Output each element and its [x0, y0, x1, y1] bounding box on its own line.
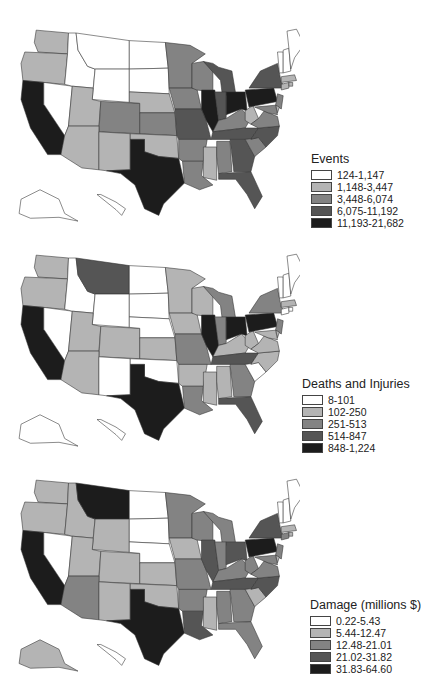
state-nd — [129, 266, 168, 295]
state-ia — [169, 313, 201, 334]
state-or — [21, 277, 68, 309]
state-wy — [92, 69, 129, 102]
state-ak — [19, 415, 78, 446]
state-hi — [97, 195, 126, 216]
state-ri — [289, 82, 293, 86]
deaths-injuries-map-panel: Deaths and Injuries 8-101 102-250 251-51… — [0, 225, 425, 450]
deaths-injuries-legend: Deaths and Injuries 8-101 102-250 251-51… — [302, 377, 410, 454]
legend-title: Deaths and Injuries — [302, 377, 410, 391]
damage-legend: Damage (millions $) 0.22-5.43 5.44-12.47… — [310, 598, 421, 675]
state-az — [61, 126, 99, 170]
state-al — [217, 141, 232, 173]
damage-map — [0, 450, 300, 678]
state-az — [61, 351, 99, 395]
state-wy — [92, 294, 129, 327]
state-sd — [129, 518, 169, 544]
legend-item: 6,075-11,192 — [311, 205, 404, 217]
legend-item: 12.48-21.01 — [310, 639, 421, 651]
state-sd — [129, 68, 169, 94]
state-ar — [179, 589, 208, 611]
events-legend: Events 124-1,147 1,148-3,447 3,448-6,074… — [311, 152, 404, 229]
legend-item: 31.83-64.60 — [310, 663, 421, 675]
legend-swatch — [310, 664, 331, 674]
state-ia — [169, 88, 201, 109]
legend-swatch — [302, 431, 323, 441]
legend-swatch — [310, 640, 331, 650]
legend-title: Damage (millions $) — [310, 598, 421, 612]
state-ma — [281, 300, 296, 308]
state-hi — [97, 645, 126, 666]
state-ks — [140, 113, 177, 136]
state-fl — [219, 622, 263, 659]
legend-swatch — [310, 652, 331, 662]
state-sd — [129, 293, 169, 319]
deaths-injuries-map — [0, 225, 300, 450]
legend-swatch — [311, 206, 332, 216]
legend-item: 21.02-31.82 — [310, 651, 421, 663]
legend-swatch — [310, 628, 331, 638]
state-ms — [203, 372, 216, 405]
legend-item: 102-250 — [302, 406, 410, 418]
events-map — [0, 0, 300, 225]
state-ak — [19, 190, 78, 221]
state-ms — [203, 597, 216, 630]
legend-item: 5.44-12.47 — [310, 627, 421, 639]
state-wa — [34, 30, 68, 54]
legend-item: 8-101 — [302, 394, 410, 406]
state-or — [21, 502, 68, 534]
damage-map-panel: Damage (millions $) 0.22-5.43 5.44-12.47… — [0, 450, 425, 678]
state-ri — [289, 532, 293, 536]
state-nm — [99, 132, 130, 171]
legend-label: 251-513 — [328, 418, 367, 430]
state-al — [217, 591, 232, 623]
legend-swatch — [311, 182, 332, 192]
legend-label: 3,448-6,074 — [337, 193, 393, 205]
legend-label: 102-250 — [328, 406, 367, 418]
legend-title: Events — [311, 152, 404, 166]
state-nd — [129, 491, 168, 519]
legend-swatch — [302, 395, 323, 405]
state-nm — [99, 582, 130, 621]
state-az — [61, 576, 99, 620]
legend-swatch — [302, 407, 323, 417]
state-wy — [92, 519, 129, 552]
state-co — [99, 551, 140, 583]
state-pa — [245, 538, 277, 557]
legend-label: 12.48-21.01 — [336, 639, 392, 651]
state-al — [217, 366, 232, 398]
state-fl — [219, 397, 263, 434]
state-ks — [140, 563, 177, 586]
legend-label: 31.83-64.60 — [336, 663, 392, 675]
state-ia — [169, 538, 201, 559]
state-or — [21, 52, 68, 84]
legend-label: 8-101 — [328, 394, 355, 406]
legend-swatch — [311, 170, 332, 180]
legend-label: 5.44-12.47 — [336, 627, 386, 639]
state-wa — [34, 480, 68, 504]
state-hi — [97, 420, 126, 441]
state-ma — [281, 75, 296, 83]
legend-label: 514-847 — [328, 430, 367, 442]
legend-swatch — [302, 419, 323, 429]
events-map-panel: Events 124-1,147 1,148-3,447 3,448-6,074… — [0, 0, 425, 225]
state-pa — [245, 88, 277, 107]
legend-item: 3,448-6,074 — [311, 193, 404, 205]
state-co — [99, 101, 140, 133]
state-pa — [245, 313, 277, 332]
state-fl — [219, 172, 263, 209]
state-ri — [289, 307, 293, 311]
legend-label: 1,148-3,447 — [337, 181, 393, 193]
legend-label: 21.02-31.82 — [336, 651, 392, 663]
legend-swatch — [310, 616, 331, 626]
state-ak — [19, 640, 78, 671]
state-nm — [99, 357, 130, 396]
legend-label: 6,075-11,192 — [337, 205, 398, 217]
state-wa — [34, 255, 68, 279]
legend-swatch — [311, 194, 332, 204]
legend-item: 514-847 — [302, 430, 410, 442]
legend-item: 1,148-3,447 — [311, 181, 404, 193]
state-ma — [281, 525, 296, 533]
legend-item: 0.22-5.43 — [310, 615, 421, 627]
state-ar — [179, 364, 208, 386]
state-ks — [140, 338, 177, 361]
